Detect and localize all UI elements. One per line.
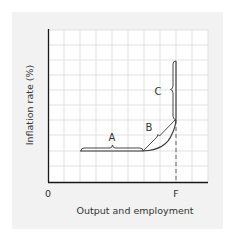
x-axis-label: Output and employment: [77, 205, 194, 216]
segment-c-label: C: [155, 86, 162, 97]
segment-a-label: A: [109, 132, 116, 143]
y-axis-label: Inflation rate (%): [24, 65, 35, 146]
chart-svg: A B C 0 F Output and employment Inflatio…: [0, 0, 234, 241]
segment-b-label: B: [146, 122, 153, 133]
origin-label: 0: [45, 188, 51, 199]
f-tick-label: F: [173, 188, 178, 199]
